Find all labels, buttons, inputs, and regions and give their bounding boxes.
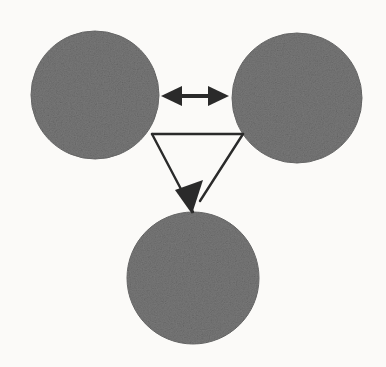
node-circle-right[interactable] [232, 33, 362, 163]
diagram-canvas [0, 0, 386, 367]
scanned-figure: in the why are for integra order the pao… [0, 0, 386, 367]
node-circle-bottom[interactable] [127, 212, 259, 344]
node-circle-left[interactable] [31, 31, 159, 159]
